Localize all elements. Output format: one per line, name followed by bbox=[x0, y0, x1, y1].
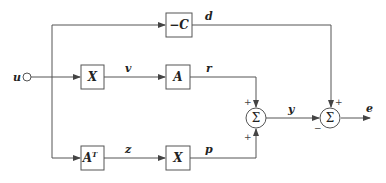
summer-1-symbol: Σ bbox=[252, 111, 260, 125]
block-diagram: u −C X A AT X d v r z p y e Σ + + Σ + − bbox=[0, 0, 386, 183]
signal-p-label: p bbox=[205, 143, 213, 156]
input-label: u bbox=[13, 71, 21, 84]
signal-y-label: y bbox=[287, 103, 296, 116]
signal-d-label: d bbox=[205, 10, 213, 23]
wire-d bbox=[192, 25, 331, 107]
summer-2-symbol: Σ bbox=[326, 111, 334, 125]
signal-v-label: v bbox=[125, 62, 132, 75]
block-x-top-label: X bbox=[87, 70, 98, 84]
output-label: e bbox=[366, 102, 373, 115]
signal-r-label: r bbox=[206, 62, 213, 75]
block-neg-c-label: −C bbox=[169, 18, 189, 32]
input-port bbox=[23, 73, 31, 81]
summer-1-sign-bottom: + bbox=[244, 132, 252, 142]
signal-z-label: z bbox=[124, 143, 132, 156]
summer-1-sign-top: + bbox=[244, 97, 252, 107]
summer-2-sign-left: − bbox=[314, 123, 322, 133]
block-a-label: A bbox=[172, 70, 182, 84]
summer-2-sign-top: + bbox=[335, 97, 343, 107]
block-x-bottom-label: X bbox=[172, 151, 183, 165]
